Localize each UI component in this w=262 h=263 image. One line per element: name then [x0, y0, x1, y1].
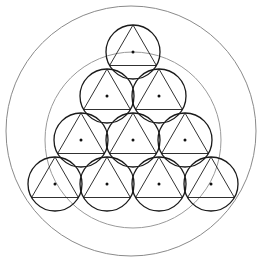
center-dot — [158, 183, 161, 186]
center-dot — [106, 183, 109, 186]
center-dot — [210, 183, 213, 186]
center-dot — [184, 139, 187, 142]
center-dot — [80, 139, 83, 142]
center-dot — [158, 95, 161, 98]
center-dot — [132, 51, 135, 54]
tetractys-diagram — [0, 0, 262, 263]
outer-circle — [6, 6, 256, 256]
center-dot — [106, 95, 109, 98]
circle-grid — [28, 25, 238, 211]
center-dot — [132, 139, 135, 142]
center-dot — [54, 183, 57, 186]
